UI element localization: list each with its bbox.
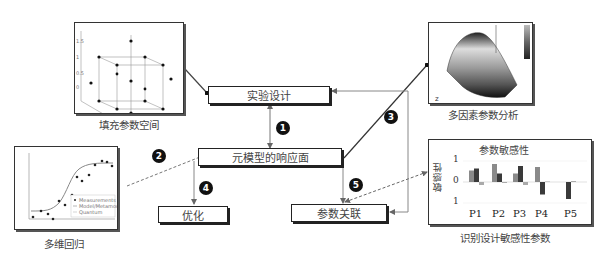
surface-plot: z — [429, 23, 533, 104]
svg-text:z: z — [435, 95, 439, 103]
multifactor-caption: 多因素参数分析 — [433, 107, 533, 122]
fill-space-caption: 填充参数空间 — [84, 117, 174, 132]
svg-text:1: 1 — [76, 54, 79, 60]
step-marker-1: 1 — [276, 121, 290, 135]
step-marker-4: 4 — [199, 181, 213, 195]
multifactor-panel: z — [428, 22, 533, 104]
sensitivity-panel: 参数敏感性 敏感性 1 0 1 P1 P2 P3 P4 P5 — [428, 139, 592, 225]
category-p3: P3 — [513, 208, 526, 219]
step-marker-5: 5 — [349, 178, 363, 192]
regression-caption: 多维回归 — [24, 236, 104, 251]
step-marker-2: 2 — [152, 149, 166, 163]
category-p5: P5 — [564, 208, 577, 219]
category-p1: P1 — [469, 208, 482, 219]
category-p4: P4 — [535, 208, 548, 219]
regression-panel: Measurements Model/Metamodel Quantum — [14, 146, 118, 230]
svg-text:1.5: 1.5 — [76, 38, 84, 44]
regression-plot: Measurements Model/Metamodel Quantum — [15, 147, 118, 230]
svg-text:Quantum: Quantum — [79, 209, 102, 215]
connector-feedback-correlation — [390, 91, 408, 212]
node-experiment-design: 实验设计 — [208, 86, 330, 104]
step-marker-3: 3 — [384, 110, 398, 124]
svg-text:0: 0 — [76, 84, 79, 90]
cube-scatter-plot: 1.510.50 — [75, 23, 184, 114]
fill-space-panel: 1.510.50 — [74, 22, 184, 114]
sensitivity-caption: 识别设计敏感性参数 — [440, 230, 570, 245]
svg-text:0.5: 0.5 — [76, 70, 84, 76]
node-optimization: 优化 — [158, 206, 228, 223]
node-parameter-correlation: 参数关联 — [291, 204, 387, 222]
node-meta-model-response-surface: 元模型的响应面 — [198, 148, 342, 166]
category-p2: P2 — [492, 208, 505, 219]
connector-fill-to-design — [185, 69, 207, 93]
